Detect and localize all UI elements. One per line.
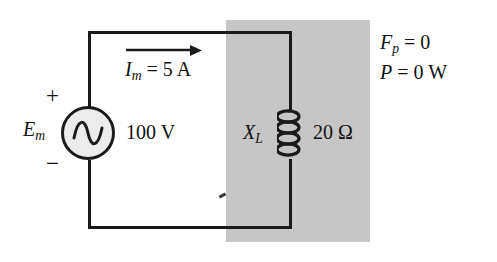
source-polarity-plus: + [46, 84, 59, 107]
source-label: Em [23, 119, 45, 143]
current-label-symbol: I [125, 58, 132, 80]
source-label-subscript: m [35, 128, 45, 143]
inductor-label-subscript: L [255, 131, 263, 146]
wire-bottom [88, 226, 292, 229]
inductor-label: XL [243, 122, 263, 146]
wire-top [88, 31, 292, 34]
annotation-power-factor: Fp = 0 [380, 32, 430, 56]
current-arrow-icon [126, 44, 202, 58]
real-power-value: = 0 W [397, 61, 447, 83]
power-factor-subscript: p [392, 41, 399, 56]
power-factor-symbol: F [380, 31, 392, 53]
wire-right-upper [289, 31, 292, 111]
source-label-symbol: E [23, 118, 35, 140]
inductor-label-symbol: X [243, 121, 255, 143]
circuit-figure: Em + − 100 V Im = 5 A XL 20 Ω Fp = 0 P =… [0, 0, 497, 262]
current-label-subscript: m [132, 68, 142, 83]
current-label: Im = 5 A [125, 59, 191, 83]
current-label-value: = 5 A [147, 58, 192, 80]
real-power-symbol: P [380, 61, 392, 83]
source-voltage-value: 100 V [126, 122, 175, 142]
power-factor-value: = 0 [404, 31, 430, 53]
annotation-real-power: P = 0 W [380, 62, 447, 82]
inductor-coil-icon [272, 105, 310, 163]
source-polarity-minus: − [46, 152, 59, 175]
wire-right-lower [289, 159, 292, 229]
wire-left-lower [88, 160, 91, 229]
sine-wave-icon [61, 106, 115, 160]
wire-left-upper [88, 31, 91, 107]
inductor-reactance-value: 20 Ω [313, 122, 353, 142]
